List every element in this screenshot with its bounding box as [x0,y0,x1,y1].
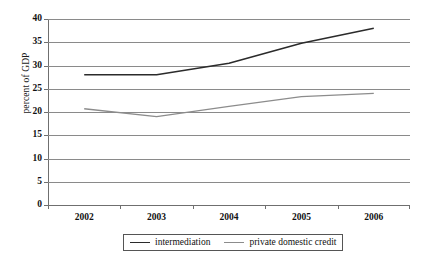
series-line [84,28,374,75]
x-tick-mark [120,205,121,209]
x-tick-mark [338,205,339,209]
series-line [84,93,374,116]
x-tick-label: 2005 [271,212,331,222]
y-tick-label: 35 [16,37,42,47]
x-tick-label: 2003 [127,212,187,222]
y-tick-label: 20 [16,107,42,117]
x-tick-label: 2002 [54,212,114,222]
legend-line-icon [130,242,150,243]
legend-item[interactable]: intermediation [130,237,210,247]
chart-legend: intermediationprivate domestic credit [123,234,343,251]
legend-label: intermediation [155,237,210,247]
x-tick-label: 2004 [199,212,259,222]
x-tick-mark [193,205,194,209]
y-tick-label: 25 [16,84,42,94]
y-tick-label: 40 [16,14,42,24]
y-tick-label: 5 [16,177,42,187]
y-tick-label: 10 [16,154,42,164]
x-tick-mark [409,205,410,209]
x-tick-label: 2006 [344,212,404,222]
y-tick-label: 30 [16,61,42,71]
y-axis-tick-labels: 0510152025303540 [14,0,42,267]
legend-line-icon [224,242,244,243]
legend-label: private domestic credit [249,237,336,247]
series-lines [48,19,410,205]
y-tick-label: 0 [16,200,42,210]
legend-item[interactable]: private domestic credit [224,237,336,247]
plot-area: 20022003200420052006 [48,19,410,205]
y-tick-label: 15 [16,130,42,140]
x-tick-mark [48,205,49,209]
x-tick-mark [265,205,266,209]
chart-figure: percent of GDP 0510152025303540 20022003… [0,0,426,267]
x-axis-line [48,205,410,206]
